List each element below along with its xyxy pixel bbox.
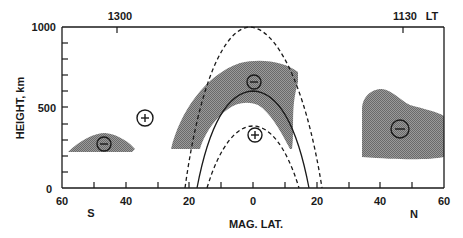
ionosphere-diagram: 1000 500 0 60 40 20 0 20 40 60 S N MAG. … [0,0,463,238]
ticks [62,27,412,188]
y-tick-500: 500 [38,102,56,114]
southern-negative-region [68,133,135,152]
x-tick-60n: 60 [438,195,450,207]
y-tick-1000: 1000 [32,21,56,33]
x-tick-40s: 40 [120,195,132,207]
plus-marker-south [137,110,153,126]
south-label: S [87,207,94,219]
y-tick-0: 0 [46,183,52,195]
x-axis-label: MAG. LAT. [229,218,283,230]
northern-negative-region [362,89,444,159]
y-axis-label: HEIGHT, km [14,77,26,140]
x-tick-0: 0 [250,195,256,207]
plus-marker-equator [248,128,262,142]
lt-label-1300: 1300 [108,10,132,22]
north-label: N [410,208,418,220]
x-tick-60s: 60 [56,195,68,207]
x-tick-20s: 20 [183,195,195,207]
lt-label-1130: 1130 [393,10,417,22]
x-tick-20n: 20 [311,195,323,207]
lt-unit-label: LT [426,10,439,22]
x-tick-40n: 40 [374,195,386,207]
